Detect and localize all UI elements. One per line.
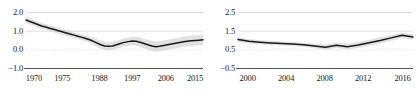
y-tick-label: 2.5 [225,8,235,17]
y-tick-label: −1.0 [8,64,23,73]
y-tick-label: 1.0 [13,27,23,36]
x-tick-label: 2006 [152,74,180,83]
y-tick-label: 0.0 [13,45,23,54]
x-tick-label: 2016 [389,74,416,83]
x-tick-label: 2000 [234,74,262,83]
x-tick-label: 2012 [349,74,377,83]
y-tick-label: 0.5 [225,45,235,54]
x-tick-label: 1997 [118,74,146,83]
y-tick-label: 1.5 [225,27,235,36]
left-panel: 2.01.00.0−1.0 197019751988199720062015 [0,0,208,94]
x-tick-label: 2015 [181,74,209,83]
right-panel: 2.51.50.5−0.5 20002004200820122016 [208,0,416,94]
y-tick-label: 2.0 [13,8,23,17]
dual-chart-figure: 2.01.00.0−1.0 197019751988199720062015 2… [0,0,416,94]
x-tick-label: 1970 [20,74,48,83]
x-tick-label: 1988 [85,74,113,83]
x-tick-label: 2008 [311,74,339,83]
x-tick-label: 1975 [48,74,76,83]
x-tick-label: 2004 [272,74,300,83]
confidence-band-area [26,17,203,52]
y-tick-label: −0.5 [220,64,235,73]
